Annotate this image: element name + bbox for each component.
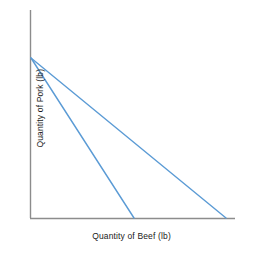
ppf-line-steeper	[31, 58, 134, 218]
ppf-line-flatter	[31, 58, 226, 218]
plot-area	[0, 0, 263, 257]
ppf-chart-figure: Quantity of Pork (lb) Quantity of Beef (…	[0, 0, 263, 257]
x-axis-label: Quantity of Beef (lb)	[0, 232, 263, 241]
